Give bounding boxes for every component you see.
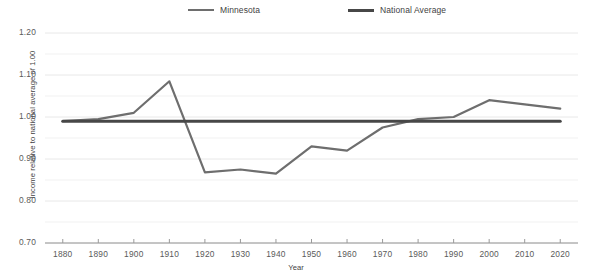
x-tick-label: 1910 xyxy=(149,249,189,259)
x-tick-label: 1890 xyxy=(78,249,118,259)
x-axis-title: Year xyxy=(0,263,592,272)
series-line-minnesota xyxy=(63,81,560,173)
legend-swatch-national-average-icon xyxy=(348,9,374,12)
y-tick-label: 0.80 xyxy=(2,195,36,205)
legend-item-minnesota[interactable]: Minnesota xyxy=(188,5,260,15)
x-tick-label: 1990 xyxy=(434,249,474,259)
y-tick-label: 0.90 xyxy=(2,153,36,163)
legend-swatch-minnesota-icon xyxy=(188,9,214,11)
plot-area xyxy=(0,0,592,278)
x-tick-label: 1980 xyxy=(398,249,438,259)
y-tick-label: 1.10 xyxy=(2,69,36,79)
x-tick-label: 2000 xyxy=(469,249,509,259)
x-tick-label: 1880 xyxy=(43,249,83,259)
y-tick-label: 1.20 xyxy=(2,27,36,37)
x-tick-label: 2010 xyxy=(505,249,545,259)
y-axis-title: Income relative to national average of 1… xyxy=(28,37,37,213)
legend-label-national-average: National Average xyxy=(380,5,446,15)
x-tick-label: 1970 xyxy=(363,249,403,259)
chart-legend: Minnesota National Average xyxy=(0,0,592,22)
y-tick-label: 1.00 xyxy=(2,111,36,121)
x-tick-label: 1930 xyxy=(220,249,260,259)
x-tick-label: 2020 xyxy=(540,249,580,259)
x-tick-label: 1920 xyxy=(185,249,225,259)
x-tick-label: 1960 xyxy=(327,249,367,259)
x-tick-label: 1940 xyxy=(256,249,296,259)
legend-item-national-average[interactable]: National Average xyxy=(348,5,446,15)
x-tick-label: 1950 xyxy=(292,249,332,259)
x-tick-label: 1900 xyxy=(114,249,154,259)
line-chart: Minnesota National Average Income relati… xyxy=(0,0,592,278)
y-tick-label: 0.70 xyxy=(2,237,36,247)
legend-label-minnesota: Minnesota xyxy=(220,5,260,15)
